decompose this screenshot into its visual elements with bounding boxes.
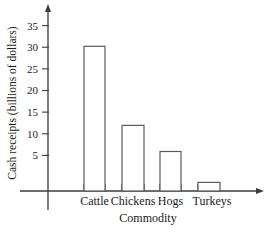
- y-tick-labels: 35 30 25 20 15 10 5: [27, 20, 39, 162]
- x-axis-arrow-icon: [256, 188, 264, 194]
- x-axis-title: Commodity: [119, 211, 176, 225]
- y-tick-label-15: 15: [27, 106, 39, 118]
- x-label-chickens: Chickens: [111, 194, 156, 208]
- bar-series: [84, 46, 220, 191]
- y-tick-label-5: 5: [33, 149, 39, 161]
- y-tick-label-25: 25: [27, 63, 39, 75]
- x-label-cattle: Cattle: [80, 194, 109, 208]
- y-axis: [45, 4, 51, 210]
- bar-chickens: [122, 125, 144, 191]
- y-tick-label-20: 20: [27, 84, 39, 96]
- bar-chart-figure: 35 30 25 20 15 10 5 Cattle: [0, 0, 273, 234]
- y-axis-arrow-icon: [45, 4, 51, 12]
- y-tick-label-30: 30: [27, 41, 39, 53]
- bar-cattle: [84, 46, 105, 191]
- x-category-labels: Cattle Chickens Hogs Turkeys: [80, 194, 232, 208]
- y-tick-label-35: 35: [27, 20, 39, 32]
- chart-canvas: 35 30 25 20 15 10 5 Cattle: [0, 0, 273, 234]
- bar-hogs: [160, 152, 181, 192]
- x-label-hogs: Hogs: [158, 194, 184, 208]
- bar-turkeys: [198, 182, 220, 191]
- x-label-turkeys: Turkeys: [193, 194, 232, 208]
- y-tick-label-10: 10: [27, 128, 39, 140]
- y-axis-title: Cash receipts (billions of dollars): [6, 26, 19, 179]
